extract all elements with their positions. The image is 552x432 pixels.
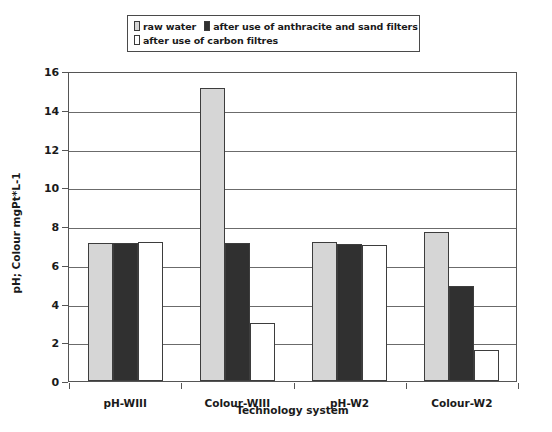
bar bbox=[312, 242, 337, 381]
chart-figure: raw water after use of anthracite and sa… bbox=[0, 0, 552, 432]
bar bbox=[138, 242, 163, 382]
bar bbox=[225, 243, 250, 381]
bar bbox=[88, 243, 113, 381]
gridline bbox=[69, 112, 516, 113]
y-tick-label: 8 bbox=[52, 221, 59, 234]
swatch-raw-water-icon bbox=[134, 21, 140, 31]
legend-entry-raw-water: raw water bbox=[134, 20, 196, 33]
x-axis-title: Technology system bbox=[68, 404, 517, 416]
swatch-carbon-icon bbox=[134, 35, 140, 45]
bar bbox=[449, 286, 474, 381]
x-tick-mark bbox=[181, 383, 182, 389]
y-tick-label: 14 bbox=[44, 104, 59, 117]
gridline bbox=[69, 151, 516, 152]
y-axis: pH; Colour mgPt*L-1 0246810121416 bbox=[0, 0, 68, 432]
y-tick-label: 2 bbox=[52, 337, 59, 350]
y-tick-label: 0 bbox=[52, 376, 59, 389]
gridline bbox=[69, 189, 516, 190]
bar bbox=[113, 243, 138, 381]
y-tick-mark bbox=[62, 382, 68, 383]
legend-row-bottom: after use of carbon filtres bbox=[134, 33, 413, 47]
plot-area: pH-WIIIColour-WIIIpH-W2Colour-W2 bbox=[68, 72, 517, 382]
bar bbox=[200, 88, 225, 381]
bar bbox=[474, 350, 499, 381]
bar bbox=[362, 245, 387, 381]
legend-entry-carbon: after use of carbon filtres bbox=[134, 34, 278, 47]
legend-label-anthracite: after use of anthracite and sand filters bbox=[213, 20, 418, 33]
x-tick-mark bbox=[518, 383, 519, 389]
y-axis-title: pH; Colour mgPt*L-1 bbox=[10, 133, 22, 333]
y-tick-label: 10 bbox=[44, 182, 59, 195]
legend-entry-anthracite: after use of anthracite and sand filters bbox=[204, 20, 418, 33]
x-tick-mark bbox=[294, 383, 295, 389]
y-tick-label: 4 bbox=[52, 298, 59, 311]
bar bbox=[424, 232, 449, 381]
x-tick-mark bbox=[406, 383, 407, 389]
legend-label-carbon: after use of carbon filtres bbox=[143, 34, 278, 47]
swatch-anthracite-icon bbox=[204, 21, 210, 31]
bar bbox=[337, 244, 362, 381]
gridline bbox=[69, 228, 516, 229]
y-tick-label: 12 bbox=[44, 143, 59, 156]
x-tick-mark bbox=[69, 383, 70, 389]
legend-label-raw-water: raw water bbox=[143, 20, 196, 33]
chart-legend: raw water after use of anthracite and sa… bbox=[127, 15, 420, 52]
bar bbox=[250, 323, 275, 381]
y-tick-label: 16 bbox=[44, 66, 59, 79]
legend-row-top: raw water after use of anthracite and sa… bbox=[134, 19, 413, 33]
y-tick-label: 6 bbox=[52, 259, 59, 272]
